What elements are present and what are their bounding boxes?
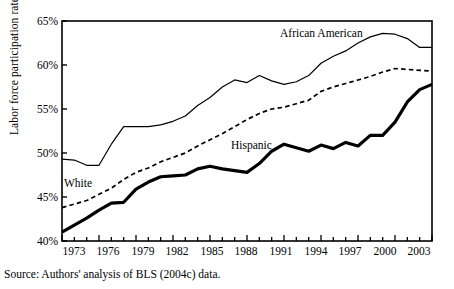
x-axis-tick-labels: 1973 1976 1979 1982 1985 1988 1991 1994 … — [0, 0, 454, 289]
x-tick-label: 2003 — [397, 245, 441, 257]
series-annotation-hispanic: Hispanic — [231, 139, 272, 151]
source-note: Source: Authors' analysis of BLS (2004c)… — [4, 268, 220, 280]
figure-container: Labor force participation rate 40% 45% 5… — [0, 0, 454, 289]
series-annotation-african-american: African American — [280, 27, 363, 39]
series-annotation-white: White — [64, 177, 92, 189]
